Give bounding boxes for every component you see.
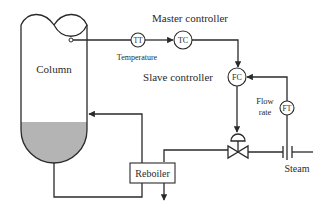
steam-to-reboiler-line [164,150,228,162]
column-bottoms-line [54,163,142,197]
fc-label: FC [232,73,242,82]
master-controller-label: Master controller [152,12,228,24]
column-vessel [21,14,87,163]
reboiler-return-line [89,114,142,163]
control-valve [228,134,248,158]
reboiler-label: Reboiler [135,168,170,179]
ft-label: FT [283,104,292,113]
valve-actuator [231,134,245,141]
column-top-break [21,14,87,36]
tc-label: TC [178,36,188,45]
column-label: Column [36,63,72,75]
cascade-control-diagram: Column TT Temperature TC Master controll… [0,0,329,211]
tc-to-fc-line [192,40,238,67]
temperature-tap [69,38,73,42]
steam-label: Steam [285,163,310,174]
flow-rate-label-2: rate [259,107,272,117]
tt-label: TT [133,36,143,45]
slave-controller-label: Slave controller [143,71,213,83]
flow-rate-label-1: Flow [256,96,274,106]
column-liquid [21,122,87,163]
temperature-label: Temperature [117,53,158,62]
